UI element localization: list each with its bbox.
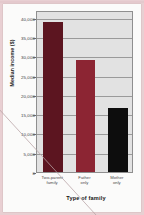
y-tick-label: 30,000 — [1, 55, 35, 60]
y-tick-label: 20,000 — [1, 93, 35, 98]
y-tick-label: 35,000 — [1, 36, 35, 41]
x-axis-labels: Two-parentfamilyFatheronlyMotheronly — [36, 175, 133, 193]
x-tick-label: Fatheronly — [68, 175, 100, 185]
y-tick-mark — [33, 19, 36, 20]
plot-area — [36, 11, 133, 173]
bar — [108, 108, 127, 172]
y-tick-mark — [33, 115, 36, 116]
x-tick-label: Two-parentfamily — [36, 175, 68, 185]
bar — [76, 60, 95, 172]
scanned-page: Median income ($) 05,00010,00015,00020,0… — [0, 0, 144, 215]
y-tick-mark — [33, 134, 36, 135]
y-tick-label: 0 — [1, 171, 35, 176]
y-tick-mark — [33, 154, 36, 155]
y-tick-label: 40,000 — [1, 16, 35, 21]
y-axis-labels: 05,00010,00015,00020,00025,00030,00035,0… — [0, 11, 35, 173]
y-tick-label: 5,000 — [1, 151, 35, 156]
y-tick-mark — [33, 38, 36, 39]
y-tick-label: 10,000 — [1, 132, 35, 137]
y-tick-label: 15,000 — [1, 113, 35, 118]
y-tick-mark — [33, 173, 36, 174]
gridline — [37, 19, 132, 20]
y-tick-label: 25,000 — [1, 74, 35, 79]
x-axis-title: Type of family — [36, 195, 136, 201]
y-axis-title: Median income ($) — [9, 23, 15, 103]
y-tick-mark — [33, 77, 36, 78]
y-tick-mark — [33, 57, 36, 58]
x-tick-label: Motheronly — [101, 175, 133, 185]
bar — [43, 22, 62, 172]
y-tick-mark — [33, 96, 36, 97]
